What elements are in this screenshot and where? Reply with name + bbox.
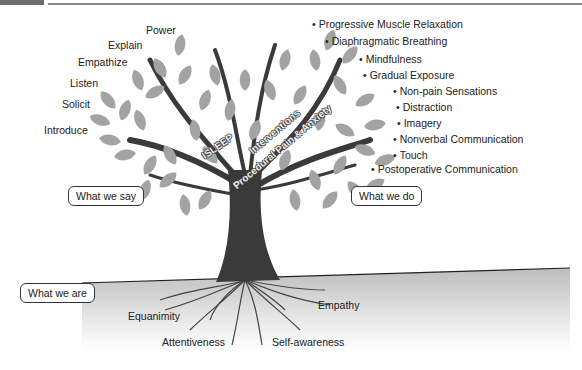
- label-explain: Explain: [108, 39, 142, 51]
- label-touch: Touch: [393, 149, 428, 161]
- label-diaphragmatic-breathing: Diaphragmatic Breathing: [325, 35, 447, 47]
- box-what-we-are: What we are: [20, 283, 95, 303]
- label-nonverbal-communication: Nonverbal Communication: [393, 133, 523, 145]
- label-progressive-muscle-relaxation: Progressive Muscle Relaxation: [312, 18, 463, 30]
- box-what-we-say: What we say: [68, 186, 144, 206]
- label-introduce: Introduce: [44, 124, 88, 136]
- label-empathize: Empathize: [78, 56, 128, 68]
- label-gradual-exposure: Gradual Exposure: [363, 69, 454, 81]
- label-postoperative-communication: Postoperative Communication: [371, 163, 518, 175]
- label-equanimity: Equanimity: [128, 310, 180, 322]
- label-listen: Listen: [70, 77, 98, 89]
- label-self-awareness: Self-awareness: [272, 336, 344, 348]
- box-what-we-do: What we do: [351, 186, 422, 206]
- label-attentiveness: Attentiveness: [162, 336, 225, 348]
- label-imagery: Imagery: [397, 117, 442, 129]
- label-distraction: Distraction: [396, 101, 452, 113]
- label-non-pain-sensations: Non-pain Sensations: [393, 85, 497, 97]
- label-power: Power: [146, 24, 176, 36]
- label-mindfulness: Mindfulness: [359, 53, 422, 65]
- label-empathy: Empathy: [318, 299, 359, 311]
- label-solicit: Solicit: [62, 98, 90, 110]
